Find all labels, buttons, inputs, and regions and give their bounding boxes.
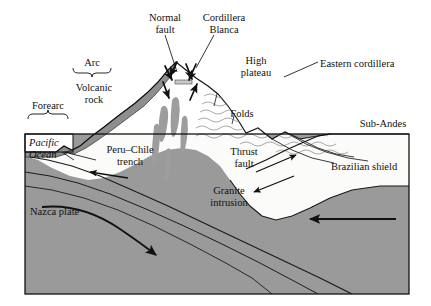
diagram-canvas: Normal fault Cordillera Blanca High plat… [0, 0, 431, 306]
arc-brace [73, 68, 111, 77]
cordillera-blanca-leader [196, 35, 214, 68]
label-granite-intrusion: Granite intrusion [196, 185, 262, 208]
label-thrust-fault: Thrust fault [218, 146, 270, 169]
eastern-cordillera-leader [284, 62, 318, 77]
label-peru-chile-trench: Peru–Chile trench [97, 144, 163, 167]
label-arc: Arc [73, 57, 111, 69]
label-pacific-ocean: Pacific Ocean [29, 137, 75, 160]
label-eastern-cordillera: Eastern cordillera [320, 58, 424, 70]
label-folds: Folds [222, 108, 262, 120]
label-nazca-plate: Nazca plate [30, 206, 102, 218]
label-brazilian-shield: Brazilian shield [331, 161, 417, 173]
label-forearc: Forearc [21, 100, 75, 112]
label-cordillera-blanca: Cordillera Blanca [186, 12, 262, 35]
label-sub-andes: Sub-Andes [350, 118, 416, 130]
label-high-plateau: High plateau [228, 55, 284, 78]
